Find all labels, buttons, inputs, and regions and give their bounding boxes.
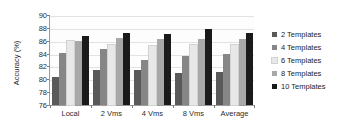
legend-swatch-icon [272, 58, 277, 63]
y-axis-tick-labels: 9088868482807876 [31, 16, 47, 106]
chart-legend: 2 Templates4 Templates6 Templates8 Templ… [272, 28, 357, 93]
bar [239, 39, 246, 105]
x-axis-tick-label: Average [214, 109, 255, 118]
bar-group: Local [50, 16, 91, 105]
legend-item-label: 2 Templates [281, 30, 321, 39]
legend-swatch-icon [272, 71, 277, 76]
bar [141, 60, 148, 105]
legend-item[interactable]: 2 Templates [272, 28, 357, 41]
legend-swatch-icon [272, 32, 277, 37]
y-axis-tick-label: 76 [33, 102, 47, 110]
y-axis-tick-label: 80 [33, 76, 47, 84]
bar [93, 70, 100, 105]
x-axis-tick-label: 2 Vms [91, 109, 132, 118]
bar-group: Average [214, 16, 255, 105]
y-axis-tick-label: 88 [33, 25, 47, 33]
bar [52, 77, 59, 105]
bar [123, 33, 130, 105]
y-axis-tick-label: 84 [33, 51, 47, 59]
bar-group: 4 Vms [132, 16, 173, 105]
bar [175, 73, 182, 105]
bar [231, 45, 238, 105]
legend-item[interactable]: 4 Templates [272, 41, 357, 54]
y-axis-tick-label: 82 [33, 63, 47, 71]
x-axis-tick-mark [214, 105, 215, 108]
x-axis-tick-label: 4 Vms [132, 109, 173, 118]
bar [157, 39, 164, 105]
plot-inner: Local2 Vms4 Vms8 VmsAverage [50, 16, 254, 105]
y-axis-tick-label: 78 [33, 89, 47, 97]
plot-area: Local2 Vms4 Vms8 VmsAverage [49, 16, 254, 106]
x-axis-tick-mark [50, 105, 51, 108]
x-axis-tick-label: 8 Vms [173, 109, 214, 118]
bar [246, 33, 253, 105]
bar [100, 49, 107, 105]
y-axis-title: Accuracy (%) [11, 26, 23, 100]
legend-item-label: 4 Templates [281, 43, 321, 52]
bar [205, 29, 212, 105]
bar [134, 70, 141, 105]
bar [59, 53, 66, 105]
bar-group: 2 Vms [91, 16, 132, 105]
legend-item[interactable]: 8 Templates [272, 67, 357, 80]
legend-swatch-icon [272, 45, 277, 50]
legend-swatch-icon [272, 84, 277, 89]
x-axis-tick-label: Local [50, 109, 91, 118]
bar [116, 38, 123, 106]
y-axis-tick-label: 90 [33, 12, 47, 20]
bar [190, 45, 197, 105]
bar [67, 41, 74, 105]
bar [182, 56, 189, 105]
bar [164, 34, 171, 105]
bar [82, 36, 89, 105]
bar-group: 8 Vms [173, 16, 214, 105]
bar [75, 41, 82, 105]
x-axis-tick-mark [91, 105, 92, 108]
bar [223, 54, 230, 105]
bar [198, 39, 205, 105]
bar [216, 72, 223, 105]
bar [108, 45, 115, 105]
bar-chart-figure: Accuracy (%) 9088868482807876 Local2 Vms… [0, 0, 359, 136]
y-axis-tick-label: 86 [33, 38, 47, 46]
legend-item-label: 10 Templates [281, 82, 325, 91]
bar [149, 46, 156, 105]
legend-item[interactable]: 6 Templates [272, 54, 357, 67]
x-axis-tick-mark [132, 105, 133, 108]
x-axis-tick-mark [254, 105, 255, 108]
legend-item-label: 6 Templates [281, 56, 321, 65]
legend-item-label: 8 Templates [281, 69, 321, 78]
x-axis-tick-mark [173, 105, 174, 108]
legend-item[interactable]: 10 Templates [272, 80, 357, 93]
